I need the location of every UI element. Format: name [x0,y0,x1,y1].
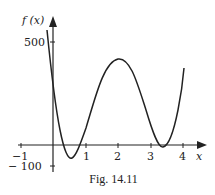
y-tick-label-500: 500 [24,36,45,49]
x-tick-label-1: 1 [83,150,90,163]
x-tick-label-3: 3 [147,150,154,163]
y-axis-arrow-icon [49,16,57,27]
x-tick-label-neg1: −1 [12,150,28,163]
x-tick-label-2: 2 [114,150,121,163]
figure-caption: Fig. 14.11 [0,172,215,187]
x-axis-arrow-icon [197,141,207,149]
chart-canvas: f (x) 500 − 100 −1 1 2 3 4 x [0,0,215,195]
x-tick-label-4: 4 [179,150,186,163]
y-axis-label: f (x) [21,14,44,27]
x-axis-label: x [196,150,203,163]
function-curve [47,30,184,158]
